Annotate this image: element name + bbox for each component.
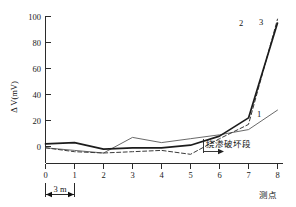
delta-v-line-chart: 100 80 60 40 20 0 0 1 2 3 4 5 6 7 8 Δ V(…	[0, 0, 296, 207]
x-axis-ticks	[46, 164, 278, 169]
x-tick-label-4: 4	[159, 170, 164, 180]
y-axis-ticks	[46, 17, 51, 147]
scale-bar: 3 m	[46, 183, 75, 197]
x-tick-label-0: 0	[43, 170, 47, 180]
series-3-line	[46, 19, 278, 154]
y-tick-label-100: 100	[28, 12, 41, 22]
scale-bar-arrow-left	[46, 192, 52, 197]
scale-bar-arrow-right	[68, 192, 74, 197]
y-tick-label-20: 20	[33, 116, 42, 126]
series-label-2: 2	[239, 18, 243, 28]
x-tick-label-1: 1	[72, 170, 76, 180]
failure-zone-label: 绕渗破坏段	[206, 139, 251, 149]
failure-zone-annotation: 绕渗破坏段	[204, 139, 252, 154]
y-tick-label-80: 80	[33, 38, 42, 48]
y-tick-label-60: 60	[33, 64, 42, 74]
y-tick-label-0: 0	[37, 142, 41, 152]
chart-container: 100 80 60 40 20 0 0 1 2 3 4 5 6 7 8 Δ V(…	[0, 0, 296, 207]
x-tick-label-2: 2	[101, 170, 105, 180]
x-tick-label-5: 5	[188, 170, 192, 180]
scale-bar-label: 3 m	[54, 184, 67, 194]
x-axis-title: 测点	[259, 190, 277, 200]
x-tick-label-8: 8	[275, 170, 279, 180]
failure-zone-arrow-head	[218, 149, 224, 154]
y-axis-title: Δ V(mV)	[9, 81, 19, 113]
x-tick-label-7: 7	[246, 170, 250, 180]
series-label-1: 1	[257, 109, 261, 119]
x-tick-label-6: 6	[217, 170, 221, 180]
x-tick-label-3: 3	[130, 170, 134, 180]
series-label-3: 3	[259, 17, 263, 27]
y-tick-label-40: 40	[33, 90, 42, 100]
